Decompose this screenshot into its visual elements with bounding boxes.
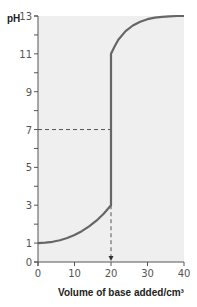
- y-tick-label: 13: [19, 11, 32, 22]
- y-tick-label: 1: [26, 238, 32, 249]
- y-axis-label: pH: [7, 13, 20, 24]
- y-tick-label: 5: [26, 162, 32, 173]
- x-tick-label: 10: [68, 268, 81, 279]
- y-tick-label: 3: [26, 200, 32, 211]
- x-tick-label: 40: [178, 268, 191, 279]
- titration-chart: 0135791113010203040 pH Volume of base ad…: [0, 0, 197, 307]
- x-tick-label: 30: [141, 268, 154, 279]
- y-tick-label: 0: [26, 257, 32, 268]
- x-tick-label: 0: [35, 268, 41, 279]
- y-tick-label: 7: [26, 125, 32, 136]
- x-axis-label: Volume of base added/cm³: [58, 287, 185, 298]
- x-tick-label: 20: [105, 268, 118, 279]
- y-tick-label: 11: [19, 49, 32, 60]
- y-tick-label: 9: [26, 87, 32, 98]
